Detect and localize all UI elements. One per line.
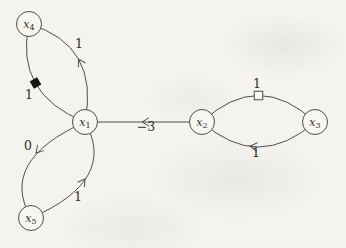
node-x1: x1 bbox=[73, 110, 98, 135]
open-square-marker bbox=[254, 91, 263, 100]
node-x3: x3 bbox=[303, 110, 328, 135]
edge-weight-label: 1 bbox=[74, 189, 82, 204]
edge-weight-label: 0 bbox=[24, 138, 32, 153]
edge-weight-label: −3 bbox=[137, 119, 155, 134]
edge-x5-to-x1 bbox=[31, 122, 94, 218]
edge-x3-to-x2-bottom bbox=[202, 122, 315, 147]
edge-weight-label: 1 bbox=[75, 36, 83, 51]
graph-svg: 1101−311x1x2x3x4x5 bbox=[0, 0, 346, 248]
edge-weight-label: 1 bbox=[25, 87, 33, 102]
edge-weight-label: 1 bbox=[252, 145, 260, 160]
edge-weight-label: 1 bbox=[253, 76, 261, 91]
node-x2: x2 bbox=[190, 110, 215, 135]
node-x4: x4 bbox=[17, 12, 42, 37]
node-x5: x5 bbox=[19, 206, 44, 231]
arrowhead-icon bbox=[33, 145, 44, 156]
graph-figure: 1101−311x1x2x3x4x5 bbox=[0, 0, 346, 248]
